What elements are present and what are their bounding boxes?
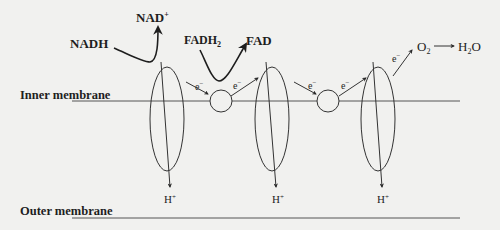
inner-membrane-label: Inner membrane <box>20 88 111 102</box>
nadh-arrow <box>114 27 158 62</box>
complex-1 <box>150 62 184 187</box>
proton-label-3: H+ <box>377 193 389 205</box>
electron-label-2: e− <box>233 79 241 91</box>
nad-plus-label: NAD+ <box>136 10 169 25</box>
complex-3 <box>361 62 395 187</box>
fadh2-arrow <box>200 44 246 81</box>
electron-transport-diagram: Inner membrane Outer membrane NADH NAD+ … <box>0 0 500 230</box>
water-label: H2O <box>458 39 481 56</box>
proton-label-2: H+ <box>272 193 284 205</box>
electron-label-3: e− <box>308 79 316 91</box>
proton-label-1: H+ <box>164 193 176 205</box>
carrier-1 <box>210 90 232 112</box>
outer-membrane-label: Outer membrane <box>20 204 113 218</box>
complex-2 <box>255 62 289 187</box>
fadh2-label: FADH2 <box>184 33 221 49</box>
carrier-2 <box>317 90 339 112</box>
electron-label-1: e− <box>195 80 203 92</box>
oxygen-label: O2 <box>417 39 430 56</box>
electron-label-5: e− <box>392 52 400 64</box>
electron-label-4: e− <box>341 79 349 91</box>
nadh-label: NADH <box>70 36 108 51</box>
fad-label: FAD <box>246 33 272 48</box>
